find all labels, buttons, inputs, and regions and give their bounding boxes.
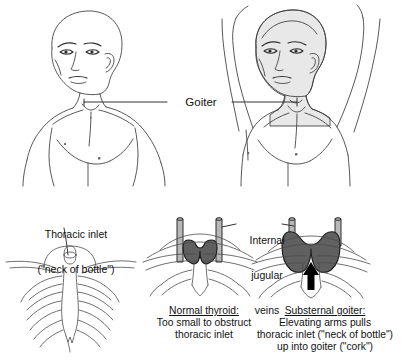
thoracic-inlet-label-line2: ("neck of bottle") <box>6 264 146 276</box>
normal-thyroid-caption-line1: Too small to obstruct <box>143 317 265 329</box>
jugular-label-line1: Internal <box>236 235 298 247</box>
substernal-goiter-caption: Substernal goiter: Elevating arms pulls … <box>248 305 402 354</box>
substernal-goiter-caption-heading: Substernal goiter: <box>248 305 402 317</box>
substernal-goiter-caption-line1: Elevating arms pulls <box>248 317 402 329</box>
normal-thyroid-caption: Normal thyroid: Too small to obstruct th… <box>143 305 265 341</box>
thoracic-inlet-label-line1: Thoracic inlet <box>6 229 146 241</box>
jugular-label-line2: jugular <box>236 270 298 282</box>
goiter-label: Goiter <box>0 96 402 109</box>
substernal-goiter-caption-line3: up into goiter ("cork") <box>248 341 402 353</box>
substernal-goiter-caption-line2: thoracic inlet ("neck of bottle") <box>248 329 402 341</box>
normal-thyroid-caption-heading: Normal thyroid: <box>143 305 265 317</box>
normal-thyroid-caption-line2: thoracic inlet <box>143 329 265 341</box>
thoracic-inlet-label: Thoracic inlet ("neck of bottle") <box>6 205 146 299</box>
medical-illustration-figure: .ln { fill:none; stroke:#3a3a3a; stroke-… <box>0 0 402 361</box>
